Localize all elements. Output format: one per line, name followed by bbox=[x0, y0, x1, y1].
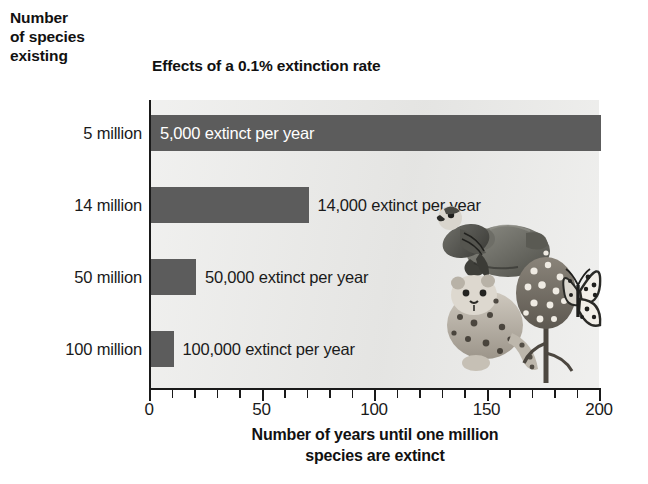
x-axis-minor-tick bbox=[307, 390, 309, 398]
bar-value-label: 50,000 extinct per year bbox=[205, 259, 368, 295]
bar bbox=[151, 187, 309, 223]
x-axis-minor-tick bbox=[239, 390, 241, 398]
x-axis-minor-tick bbox=[532, 390, 534, 398]
y-axis-tick-labels: 5 million14 million50 million100 million bbox=[8, 100, 142, 388]
x-axis-tick-label: 150 bbox=[473, 400, 500, 420]
x-axis-title-line-2: species are extinct bbox=[149, 445, 601, 466]
bar-row: 14,000 extinct per year bbox=[151, 187, 601, 223]
bar-value-label: 5,000 extinct per year bbox=[160, 115, 314, 151]
x-axis-minor-tick bbox=[577, 390, 579, 398]
bar-value-label: 14,000 extinct per year bbox=[318, 187, 481, 223]
x-axis-minor-tick bbox=[419, 390, 421, 398]
x-axis-tick-label: 0 bbox=[144, 400, 153, 420]
x-axis-tick-label: 100 bbox=[360, 400, 387, 420]
y-axis-title: Number of species existing bbox=[10, 8, 150, 65]
y-axis-tick-label: 5 million bbox=[8, 115, 142, 151]
bar-value-label: 100,000 extinct per year bbox=[183, 331, 355, 367]
x-axis-tick-label: 200 bbox=[585, 400, 612, 420]
y-axis-tick-label: 100 million bbox=[8, 331, 142, 367]
bar bbox=[151, 259, 196, 295]
bar-row: 50,000 extinct per year bbox=[151, 259, 601, 295]
x-axis-minor-tick bbox=[217, 390, 219, 398]
y-axis-tick-label: 14 million bbox=[8, 187, 142, 223]
y-axis-title-line-3: existing bbox=[10, 46, 150, 65]
y-axis-title-line-2: of species bbox=[10, 27, 150, 46]
chart-title: Effects of a 0.1% extinction rate bbox=[152, 57, 380, 75]
bar bbox=[151, 331, 174, 367]
x-axis-minor-tick bbox=[464, 390, 466, 398]
x-axis-minor-tick bbox=[352, 390, 354, 398]
x-axis-minor-tick bbox=[172, 390, 174, 398]
x-axis-minor-tick bbox=[284, 390, 286, 398]
y-axis-tick-label: 50 million bbox=[8, 259, 142, 295]
x-axis-title-line-1: Number of years until one million bbox=[149, 424, 601, 445]
x-axis-tick-label: 50 bbox=[252, 400, 270, 420]
x-axis-minor-tick bbox=[554, 390, 556, 398]
y-axis-title-line-1: Number bbox=[10, 8, 150, 27]
plot-area: 5,000 extinct per year14,000 extinct per… bbox=[149, 100, 599, 388]
x-axis-minor-tick bbox=[194, 390, 196, 398]
x-axis-minor-tick bbox=[397, 390, 399, 398]
x-axis-minor-tick bbox=[329, 390, 331, 398]
x-axis-minor-tick bbox=[442, 390, 444, 398]
bar-row: 5,000 extinct per year bbox=[151, 115, 601, 151]
x-axis-title: Number of years until one million specie… bbox=[149, 424, 601, 466]
x-axis-minor-tick bbox=[509, 390, 511, 398]
bar-row: 100,000 extinct per year bbox=[151, 331, 601, 367]
